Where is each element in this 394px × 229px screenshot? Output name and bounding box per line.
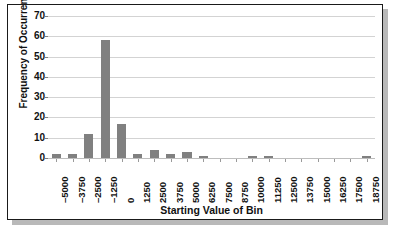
y-tick-label: 10 <box>34 133 45 143</box>
y-tick-label: 20 <box>34 112 45 122</box>
x-tick-label: 3750 <box>175 182 185 203</box>
plot-background <box>48 16 375 158</box>
x-tick-mark <box>350 159 351 162</box>
x-tick-label: 12500 <box>289 177 299 203</box>
y-tick-mark <box>45 117 48 118</box>
gridline <box>48 77 375 78</box>
x-tick-label: 16250 <box>338 177 348 203</box>
y-tick-mark <box>45 36 48 37</box>
x-tick-mark <box>236 159 237 162</box>
bar <box>68 154 77 158</box>
x-tick-label: 0 <box>126 198 136 203</box>
chart-frame: Frequency of Occurrence 010203040506070 … <box>7 4 383 220</box>
x-tick-label: –5000 <box>60 177 70 203</box>
x-tick-mark <box>89 159 90 162</box>
bar <box>166 154 175 158</box>
gridline <box>48 57 375 58</box>
plot-area <box>48 16 375 158</box>
x-tick-mark <box>154 159 155 162</box>
y-tick-mark <box>45 16 48 17</box>
gridline <box>48 138 375 139</box>
x-tick-mark <box>301 159 302 162</box>
y-tick-label: 70 <box>34 11 45 21</box>
x-tick-label: 1250 <box>142 182 152 203</box>
x-axis-tick-labels: –5000–3750–2500–125001250250037505000625… <box>48 159 375 205</box>
bar <box>133 154 142 158</box>
y-tick-mark <box>45 158 48 159</box>
bar <box>117 124 126 158</box>
y-tick-label: 30 <box>34 92 45 102</box>
histogram-figure: Frequency of Occurrence 010203040506070 … <box>0 0 394 229</box>
y-tick-mark <box>45 97 48 98</box>
y-axis-tick-labels: 010203040506070 <box>20 5 45 219</box>
y-tick-label: 60 <box>34 31 45 41</box>
x-tick-mark <box>187 159 188 162</box>
x-tick-label: 17500 <box>354 177 364 203</box>
bar <box>362 156 371 158</box>
x-tick-mark <box>285 159 286 162</box>
bar <box>84 134 93 158</box>
y-tick-label: 40 <box>34 72 45 82</box>
x-tick-label: 6250 <box>207 182 217 203</box>
x-tick-mark <box>203 159 204 162</box>
bar <box>182 152 191 158</box>
bar <box>150 150 159 158</box>
y-tick-mark <box>45 77 48 78</box>
x-tick-label: 2500 <box>158 182 168 203</box>
bar <box>52 154 61 158</box>
gridline <box>48 16 375 17</box>
y-tick-mark <box>45 138 48 139</box>
x-tick-label: 7500 <box>224 182 234 203</box>
gridline <box>48 36 375 37</box>
x-axis-title: Starting Value of Bin <box>48 204 375 216</box>
x-tick-mark <box>318 159 319 162</box>
x-tick-label: 8750 <box>240 182 250 203</box>
bar <box>199 156 208 158</box>
x-tick-label: 18750 <box>371 177 381 203</box>
x-tick-label: –2500 <box>93 177 103 203</box>
x-tick-mark <box>269 159 270 162</box>
x-tick-mark <box>56 159 57 162</box>
x-tick-label: 15000 <box>322 177 332 203</box>
x-tick-label: 11250 <box>273 177 283 203</box>
x-tick-mark <box>334 159 335 162</box>
gridline <box>48 117 375 118</box>
x-tick-mark <box>220 159 221 162</box>
x-tick-label: –1250 <box>109 177 119 203</box>
x-tick-mark <box>171 159 172 162</box>
x-tick-label: 5000 <box>191 182 201 203</box>
y-tick-mark <box>45 57 48 58</box>
x-tick-mark <box>105 159 106 162</box>
x-tick-mark <box>138 159 139 162</box>
x-tick-mark <box>122 159 123 162</box>
x-tick-mark <box>73 159 74 162</box>
x-tick-label: 13750 <box>305 177 315 203</box>
y-tick-label: 50 <box>34 52 45 62</box>
x-tick-label: –3750 <box>77 177 87 203</box>
x-tick-mark <box>252 159 253 162</box>
x-tick-label: 10000 <box>256 177 266 203</box>
bar <box>101 40 110 158</box>
bar <box>248 156 257 158</box>
bar <box>264 156 273 158</box>
gridline <box>48 97 375 98</box>
x-tick-mark <box>367 159 368 162</box>
